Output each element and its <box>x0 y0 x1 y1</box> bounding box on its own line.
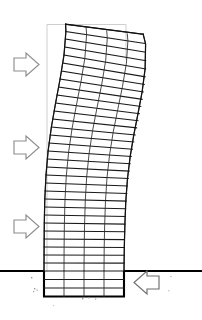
building-deformation-diagram: Lateral deformation of a high-rise build… <box>0 0 202 320</box>
load-arrow-top <box>14 53 39 76</box>
load-arrow-middle <box>14 136 39 159</box>
basement-foundation-box <box>44 271 124 297</box>
reaction-arrow-base <box>134 271 159 294</box>
diagram-canvas <box>0 0 202 320</box>
load-arrow-lower <box>14 215 39 238</box>
basement-column-lines <box>64 271 104 297</box>
deformed-building-frame <box>44 24 146 271</box>
building-envelope <box>44 24 146 271</box>
floor-lines-group <box>44 24 146 271</box>
column-gridlines-group <box>44 24 146 271</box>
